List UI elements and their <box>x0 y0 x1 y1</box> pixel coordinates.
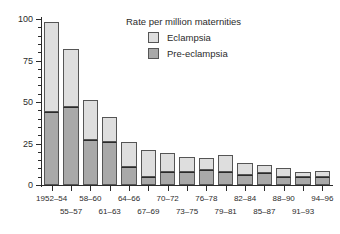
bar-segment-pre-eclampsia <box>44 112 59 185</box>
x-axis-tick-label: 94–96 <box>311 194 333 203</box>
y-axis-minor-tick <box>38 119 41 120</box>
x-axis-tick <box>110 186 111 191</box>
x-axis-tick-label: 64–66 <box>118 194 140 203</box>
y-axis-minor-tick <box>38 177 41 178</box>
x-axis-tick-label: 73–75 <box>176 207 198 216</box>
bar-1952–54 <box>44 22 59 185</box>
x-axis-tick-label: 61–63 <box>99 207 121 216</box>
legend-entry-eclampsia: Eclampsia <box>148 32 241 43</box>
bar-67–69 <box>141 150 156 185</box>
x-axis-tick-label: 76–78 <box>195 194 217 203</box>
bar-segment-pre-eclampsia <box>63 107 78 185</box>
y-axis-major-tick <box>36 102 41 103</box>
legend-entry-pre-eclampsia: Pre-eclampsia <box>148 48 241 59</box>
x-axis-tick <box>90 186 91 191</box>
x-axis-tick <box>303 186 304 191</box>
bar-58–60 <box>83 100 98 185</box>
bar-segment-eclampsia <box>83 100 98 140</box>
x-axis-tick-label: 67–69 <box>137 207 159 216</box>
y-axis-minor-tick <box>38 94 41 95</box>
y-axis-minor-tick <box>38 152 41 153</box>
x-axis-tick <box>187 186 188 191</box>
x-axis-tick <box>168 186 169 191</box>
bar-segment-eclampsia <box>63 49 78 107</box>
y-axis-major-tick <box>36 61 41 62</box>
bar-segment-eclampsia <box>218 155 233 172</box>
x-axis-tick-label: 58–60 <box>79 194 101 203</box>
x-axis-tick-label: 55–57 <box>60 207 82 216</box>
bar-segment-eclampsia <box>44 22 59 112</box>
bar-segment-pre-eclampsia <box>102 142 117 185</box>
bar-85–87 <box>257 165 272 185</box>
x-axis-tick <box>52 186 53 191</box>
bar-segment-eclampsia <box>179 157 194 172</box>
legend-label-pre-eclampsia: Pre-eclampsia <box>167 48 228 59</box>
bar-segment-eclampsia <box>141 150 156 177</box>
bar-segment-eclampsia <box>121 142 136 167</box>
x-axis-tick-label: 88–90 <box>273 194 295 203</box>
stacked-bar-chart: 0255075100 1952–5455–5758–6061–6364–6667… <box>0 0 340 234</box>
legend-swatch-pre-eclampsia <box>148 48 159 59</box>
bar-segment-pre-eclampsia <box>218 172 233 185</box>
bar-91–93 <box>295 172 310 185</box>
bar-segment-pre-eclampsia <box>179 172 194 185</box>
y-axis-minor-tick <box>38 110 41 111</box>
y-axis-minor-tick <box>38 36 41 37</box>
bar-76–78 <box>199 158 214 185</box>
chart-legend: Rate per million maternities Eclampsia P… <box>148 16 241 59</box>
y-axis-minor-tick <box>38 85 41 86</box>
y-axis-tick-label: 100 <box>0 15 33 24</box>
bar-79–81 <box>218 155 233 185</box>
bar-segment-pre-eclampsia <box>121 167 136 185</box>
y-axis-minor-tick <box>38 27 41 28</box>
bar-segment-eclampsia <box>102 117 117 142</box>
x-axis-tick-label: 85–87 <box>253 207 275 216</box>
legend-title: Rate per million maternities <box>126 16 241 27</box>
legend-label-eclampsia: Eclampsia <box>167 32 211 43</box>
y-axis-minor-tick <box>38 168 41 169</box>
x-axis-tick <box>245 186 246 191</box>
y-axis-minor-tick <box>38 44 41 45</box>
x-axis-tick <box>226 186 227 191</box>
x-axis-tick <box>129 186 130 191</box>
bar-70–72 <box>160 153 175 185</box>
x-axis-tick <box>264 186 265 191</box>
x-axis-tick-label: 1952–54 <box>36 194 67 203</box>
x-axis-tick <box>322 186 323 191</box>
y-axis-minor-tick <box>38 77 41 78</box>
y-axis-tick-label: 75 <box>0 56 33 65</box>
bar-61–63 <box>102 117 117 185</box>
y-axis-tick-label: 50 <box>0 98 33 107</box>
y-axis-tick-label: 0 <box>0 181 33 190</box>
y-axis-minor-tick <box>38 160 41 161</box>
bar-segment-pre-eclampsia <box>315 177 330 185</box>
bar-64–66 <box>121 142 136 185</box>
bar-segment-pre-eclampsia <box>199 170 214 185</box>
x-axis-tick <box>206 186 207 191</box>
bar-segment-eclampsia <box>257 165 272 173</box>
legend-swatch-eclampsia <box>148 32 159 43</box>
bar-segment-pre-eclampsia <box>83 140 98 185</box>
y-axis-minor-tick <box>38 69 41 70</box>
bar-82–84 <box>237 163 252 185</box>
bar-segment-eclampsia <box>199 158 214 170</box>
y-axis-minor-tick <box>38 52 41 53</box>
bar-segment-pre-eclampsia <box>257 173 272 185</box>
bar-segment-eclampsia <box>160 153 175 172</box>
y-axis-minor-tick <box>38 135 41 136</box>
x-axis-tick-label: 82–84 <box>234 194 256 203</box>
x-axis-tick-label: 70–72 <box>157 194 179 203</box>
x-axis-tick <box>284 186 285 191</box>
bar-73–75 <box>179 157 194 185</box>
bar-segment-pre-eclampsia <box>276 177 291 185</box>
bar-segment-eclampsia <box>237 163 252 175</box>
y-axis-major-tick <box>36 144 41 145</box>
y-axis-major-tick <box>36 19 41 20</box>
x-axis-tick-label: 79–81 <box>215 207 237 216</box>
x-axis-tick <box>148 186 149 191</box>
x-axis-tick-label: 91–93 <box>292 207 314 216</box>
bar-segment-pre-eclampsia <box>160 172 175 185</box>
bar-segment-pre-eclampsia <box>295 177 310 185</box>
y-axis-tick-label: 25 <box>0 139 33 148</box>
bar-segment-pre-eclampsia <box>237 175 252 185</box>
